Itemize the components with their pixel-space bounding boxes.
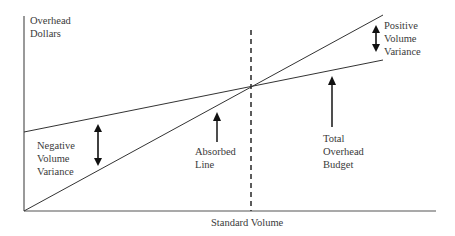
negative-label-line-1: Negative bbox=[37, 139, 75, 152]
negative-variance-label: Negative Volume Variance bbox=[37, 139, 75, 178]
negative-label-line-3: Variance bbox=[37, 165, 75, 178]
total-budget-arrow-icon bbox=[328, 76, 336, 127]
y-axis-label-line-2: Dollars bbox=[30, 27, 71, 40]
y-axis-label-line-1: Overhead bbox=[30, 14, 71, 27]
negative-variance-double-arrow-icon bbox=[94, 124, 102, 166]
positive-variance-label: Positive Volume Variance bbox=[384, 19, 421, 58]
budget-label-line-1: Total bbox=[323, 132, 364, 145]
absorbed-label-line-2: Line bbox=[195, 158, 236, 171]
absorbed-line-arrow-icon bbox=[213, 112, 221, 142]
positive-variance-double-arrow-icon bbox=[372, 25, 380, 52]
negative-label-line-2: Volume bbox=[37, 152, 75, 165]
y-axis-label: Overhead Dollars bbox=[30, 14, 71, 40]
total-overhead-budget-line bbox=[24, 60, 383, 132]
absorbed-label-line-1: Absorbed bbox=[195, 145, 236, 158]
budget-label-line-3: Budget bbox=[323, 158, 364, 171]
total-budget-label: Total Overhead Budget bbox=[323, 132, 364, 171]
positive-label-line-2: Volume bbox=[384, 32, 421, 45]
x-axis-label: Standard Volume bbox=[211, 216, 283, 229]
positive-label-line-1: Positive bbox=[384, 19, 421, 32]
budget-label-line-2: Overhead bbox=[323, 145, 364, 158]
absorbed-line bbox=[24, 15, 383, 211]
positive-label-line-3: Variance bbox=[384, 45, 421, 58]
absorbed-line-label: Absorbed Line bbox=[195, 145, 236, 171]
